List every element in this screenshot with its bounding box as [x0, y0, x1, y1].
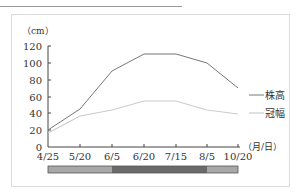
y-tick-label: 80 [29, 75, 42, 86]
legend-label-冠幅: 冠幅 [265, 107, 285, 119]
y-tick-label: 120 [23, 41, 42, 52]
x-tick-label: 4/25 [37, 151, 59, 162]
x-tick-labels: 4/25 5/20 6/5 6/20 7/15 8/5 10/20 [37, 151, 253, 162]
phase-segment [112, 166, 207, 173]
y-axis-unit: （cm） [22, 26, 54, 36]
phase-segment [48, 166, 112, 173]
legend-label-株高: 株高 [265, 89, 285, 101]
x-axis-unit: （月/日） [243, 142, 282, 152]
y-tick-label: 100 [23, 58, 42, 69]
x-tick-label: 5/20 [69, 151, 91, 162]
x-tick-label: 8/5 [199, 151, 215, 162]
growth-chart: （cm） 120 100 80 60 40 20 0 4/25 5/20 6/5… [0, 0, 301, 195]
y-tick-label: 40 [29, 108, 42, 119]
y-tick-label: 60 [29, 92, 42, 103]
series-line-冠幅 [48, 101, 238, 133]
phase-bar [48, 166, 238, 173]
x-tick-label: 6/5 [104, 151, 120, 162]
x-tick-label: 6/20 [133, 151, 155, 162]
x-tick-label: 10/20 [224, 151, 253, 162]
series-line-株高 [48, 54, 238, 130]
x-tick-label: 7/15 [165, 151, 187, 162]
y-tick-label: 20 [29, 125, 42, 136]
phase-segment [207, 166, 238, 173]
y-tick-labels: 120 100 80 60 40 20 0 [23, 41, 42, 153]
